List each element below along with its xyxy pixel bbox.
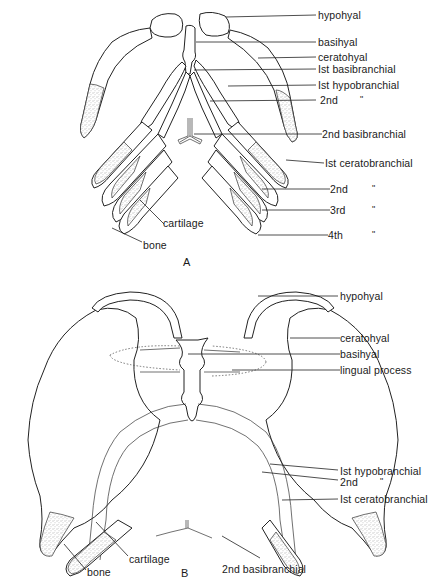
label-b-2nd-hypobranchial: 2nd (340, 476, 358, 488)
ditto-mark: " (372, 229, 375, 239)
label-a-2nd-basibranchial: 2nd basibranchial (322, 128, 406, 140)
ditto-mark: " (372, 183, 375, 193)
label-b-2nd-basibranchial: 2nd basibranchial (222, 563, 306, 575)
label-a-1st-ceratobranchial: Ist ceratobranchial (325, 157, 413, 169)
panel-label-b: B (181, 567, 188, 579)
label-a-basihyal: basihyal (318, 36, 357, 48)
label-b-basihyal: basihyal (340, 348, 379, 360)
label-a-1st-basibranchial: Ist basibranchial (318, 63, 396, 75)
label-a-4th-ceratobranchial: 4th (328, 229, 343, 241)
ditto-mark: " (360, 94, 363, 104)
label-a-2nd-hypobranchial: 2nd (320, 94, 338, 106)
label-a-bone: bone (143, 239, 167, 251)
panel-label-a: A (183, 256, 190, 268)
label-a-ceratohyal: ceratohyal (318, 51, 367, 63)
ditto-mark: " (380, 476, 383, 486)
label-a-1st-hypobranchial: Ist hypobranchial (318, 79, 399, 91)
label-a-3rd-ceratobranchial: 3rd (330, 204, 345, 216)
label-a-hypohyal: hypohyal (318, 9, 361, 21)
label-b-cartilage: cartilage (129, 553, 170, 565)
label-b-hypohyal: hypohyal (340, 290, 383, 302)
label-b-lingual-process: lingual process (340, 364, 412, 376)
label-a-cartilage: cartilage (163, 217, 204, 229)
label-a-2nd-ceratobranchial: 2nd (330, 183, 348, 195)
label-b-1st-ceratobranchial: Ist ceratobranchial (340, 493, 428, 505)
label-b-ceratohyal: ceratohyal (340, 332, 389, 344)
figure-a-drawing (80, 12, 330, 242)
ditto-mark: " (372, 204, 375, 214)
label-b-bone: bone (87, 566, 111, 578)
